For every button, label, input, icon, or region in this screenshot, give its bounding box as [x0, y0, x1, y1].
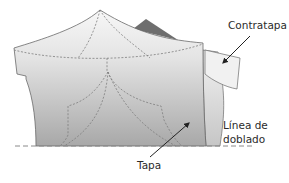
fold-line-label-line1: Línea de: [223, 119, 268, 131]
fold-line-label-line2: doblado: [223, 133, 265, 145]
front-piece: [14, 10, 206, 146]
facing-label: Contratapa: [228, 19, 287, 31]
front-label: Tapa: [137, 159, 161, 171]
